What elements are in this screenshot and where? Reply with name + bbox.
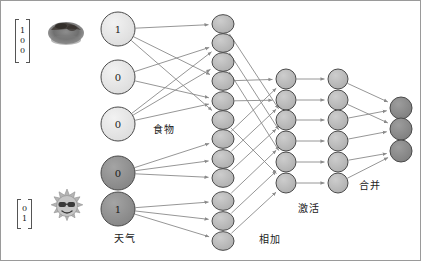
input-weather-node-1-value: 1 (115, 204, 121, 215)
label-merge: 合并 (359, 177, 380, 192)
activate-layer-node-1[interactable] (276, 90, 296, 110)
activate-layer-node-0[interactable] (276, 69, 296, 89)
edge (348, 153, 386, 160)
edge (133, 69, 210, 115)
add-layer-node-4[interactable] (212, 92, 234, 111)
network-graph: 10001 (1, 1, 421, 261)
edge (135, 25, 208, 28)
add-layer-node-1[interactable] (212, 34, 234, 53)
input-food-node-2-value: 0 (115, 119, 121, 130)
edge (231, 171, 276, 213)
edge (135, 81, 209, 98)
merge-layer-node-1[interactable] (328, 90, 348, 110)
merge-layer-node-3[interactable] (328, 131, 348, 151)
add-layer-node-3[interactable] (212, 72, 234, 91)
edge (231, 192, 276, 233)
input-food-node-1-value: 0 (115, 72, 121, 83)
add-layer-node-2[interactable] (212, 53, 234, 72)
activate-layer-node-3[interactable] (276, 131, 296, 151)
edge (135, 161, 208, 171)
activate-layer-node-4[interactable] (276, 152, 296, 172)
label-food: 食物 (153, 121, 174, 136)
activate-layer-node-5[interactable] (276, 173, 296, 193)
edge (229, 34, 278, 109)
output-layer-node-1[interactable] (390, 118, 412, 140)
edge (135, 214, 209, 237)
edge (231, 109, 276, 151)
add-layer-node-8[interactable] (212, 169, 234, 188)
output-layer-node-2[interactable] (390, 140, 412, 162)
input-weather-node-0-value: 0 (115, 168, 121, 179)
edge (135, 47, 210, 71)
label-weather: 天气 (114, 230, 135, 245)
add-layer-node-9[interactable] (212, 192, 234, 211)
edge (229, 53, 278, 130)
merge-layer-node-5[interactable] (328, 173, 348, 193)
edge (135, 143, 210, 167)
output-layer-node-0[interactable] (390, 97, 412, 119)
edge (234, 100, 272, 101)
activate-layer-node-2[interactable] (276, 110, 296, 130)
label-add: 相加 (259, 231, 280, 246)
edge (229, 72, 279, 151)
edge (231, 88, 276, 131)
merge-layer-node-4[interactable] (328, 152, 348, 172)
add-layer-node-5[interactable] (212, 111, 234, 130)
edge (135, 202, 208, 208)
diagram-canvas: 1 0 0 0 1 (0, 0, 421, 261)
input-food-node-0-value: 1 (115, 24, 121, 35)
edge (231, 150, 276, 193)
edge (348, 83, 388, 102)
add-layer-node-10[interactable] (212, 212, 234, 231)
merge-layer-node-2[interactable] (328, 110, 348, 130)
add-layer-node-11[interactable] (212, 232, 234, 251)
add-layer-node-7[interactable] (212, 150, 234, 169)
add-layer-node-0[interactable] (212, 15, 234, 34)
edge (348, 132, 386, 139)
add-layer-node-6[interactable] (212, 130, 234, 149)
merge-layer-node-0[interactable] (328, 69, 348, 89)
edge (135, 174, 208, 177)
edge (348, 104, 388, 123)
edge (348, 111, 386, 118)
nodes-group: 10001 (101, 12, 412, 250)
edge (134, 37, 210, 75)
edge (347, 158, 388, 179)
edge (234, 79, 272, 80)
edge (135, 104, 209, 120)
label-activate: 激活 (298, 200, 319, 215)
